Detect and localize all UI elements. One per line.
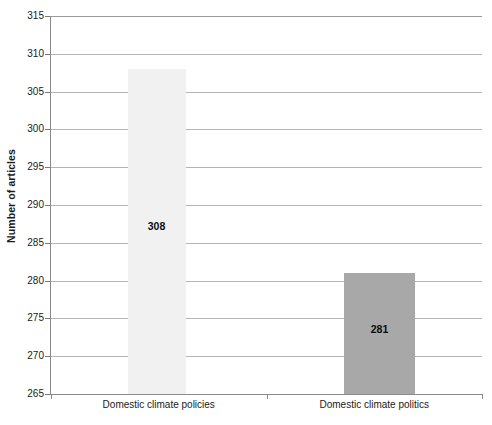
plot-area: 308281: [51, 16, 482, 394]
y-axis-tick: [45, 92, 50, 93]
x-axis-category-label: Domestic climate policies: [49, 398, 269, 412]
gridline: [51, 281, 482, 282]
y-axis-tick: [45, 394, 50, 395]
y-axis-tick-label: 305: [4, 87, 44, 97]
gridline: [51, 54, 482, 55]
bar-value-label: 281: [344, 323, 415, 335]
y-axis-tick: [45, 243, 50, 244]
bar-chart: Number of articles 265270275280285290295…: [0, 0, 492, 425]
bar-value-label: 308: [128, 220, 186, 232]
y-axis-tick-label: 270: [4, 351, 44, 361]
y-axis-tick: [45, 318, 50, 319]
gridline: [51, 16, 482, 17]
gridline: [51, 318, 482, 319]
gridline: [51, 205, 482, 206]
y-axis-tick-label: 275: [4, 313, 44, 323]
gridline: [51, 129, 482, 130]
x-axis-category-label: Domestic climate politics: [264, 398, 484, 412]
y-axis-tick-label: 300: [4, 124, 44, 134]
y-axis-tick: [45, 167, 50, 168]
y-axis-tick: [45, 16, 50, 17]
y-axis-tick-label: 310: [4, 49, 44, 59]
gridline: [51, 243, 482, 244]
y-axis-tick-label: 280: [4, 276, 44, 286]
y-axis-tick-label: 285: [4, 238, 44, 248]
gridline: [51, 167, 482, 168]
y-axis-tick-label: 290: [4, 200, 44, 210]
y-axis-tick: [45, 129, 50, 130]
y-axis-tick: [45, 54, 50, 55]
y-axis-tick-label: 265: [4, 389, 44, 399]
y-axis-tick: [45, 356, 50, 357]
gridline: [51, 356, 482, 357]
y-axis-tick-label: 315: [4, 11, 44, 21]
y-axis-tick: [45, 205, 50, 206]
y-axis-tick: [45, 281, 50, 282]
y-axis-tick-label: 295: [4, 162, 44, 172]
bar-1[interactable]: 308: [128, 69, 186, 394]
gridline: [51, 92, 482, 93]
y-axis-tick-labels: 265270275280285290295300305310315: [0, 0, 44, 425]
bar-2[interactable]: 281: [344, 273, 415, 394]
